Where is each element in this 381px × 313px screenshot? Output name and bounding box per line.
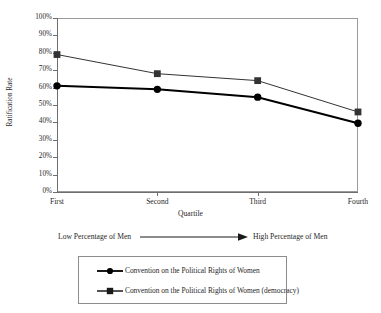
- data-point-circle: [254, 93, 261, 100]
- legend-label: Convention on the Political Rights of Wo…: [125, 266, 260, 276]
- annotation-left-label: Low Percentage of Men: [58, 232, 131, 241]
- legend-item: Convention on the Political Rights of Wo…: [79, 282, 288, 300]
- series-lines: [0, 0, 381, 225]
- legend-item: Convention on the Political Rights of Wo…: [79, 262, 288, 280]
- annotation-right-label: High Percentage of Men: [253, 232, 327, 241]
- data-point-square: [254, 77, 261, 84]
- plot-area: 100%90%80%70%60%50%40%30%20%10%0% FirstS…: [0, 0, 381, 225]
- series-line: [57, 55, 358, 112]
- data-point-circle: [53, 82, 60, 89]
- legend-label: Convention on the Political Rights of Wo…: [125, 286, 299, 296]
- data-point-square: [154, 70, 161, 77]
- right-arrow-icon: [140, 230, 250, 244]
- legend-marker-square-icon: [95, 284, 125, 298]
- chart-figure: 100%90%80%70%60%50%40%30%20%10%0% FirstS…: [0, 0, 381, 313]
- data-point-circle: [354, 120, 361, 127]
- y-axis-title: Ratification Rate: [6, 47, 14, 157]
- legend-box: Convention on the Political Rights of Wo…: [78, 256, 287, 304]
- annotation-row: Low Percentage of Men High Percentage of…: [0, 230, 381, 248]
- data-point-square: [355, 109, 362, 116]
- series-line: [57, 86, 358, 123]
- data-point-circle: [154, 86, 161, 93]
- data-point-square: [54, 51, 61, 58]
- legend-marker-circle-icon: [95, 264, 125, 278]
- x-axis-title: Quartile: [0, 209, 381, 218]
